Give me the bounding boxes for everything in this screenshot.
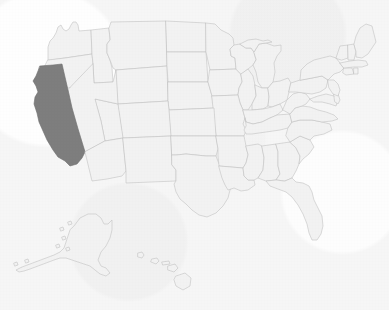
state-minnesota[interactable] [206, 23, 236, 70]
alaska-inset-group [14, 214, 112, 276]
alaska-island-g [60, 227, 64, 231]
state-new-mexico[interactable] [123, 136, 176, 183]
state-maryland[interactable] [310, 94, 338, 106]
state-north-dakota[interactable] [166, 21, 206, 52]
state-colorado[interactable] [118, 101, 171, 138]
state-massachusetts[interactable] [340, 60, 368, 68]
alaska-island-a [62, 236, 66, 240]
state-north-carolina[interactable] [286, 120, 332, 142]
alaska-island-e [25, 259, 29, 263]
state-rhode-island[interactable] [354, 68, 358, 74]
state-virginia[interactable] [290, 106, 338, 122]
state-new-jersey[interactable] [328, 80, 340, 96]
state-nebraska[interactable] [168, 82, 214, 110]
state-maine[interactable] [354, 24, 376, 58]
state-vermont[interactable] [336, 45, 348, 60]
state-montana[interactable] [107, 21, 167, 70]
contiguous-states-group [33, 21, 376, 240]
hawaii-inset-group [138, 252, 191, 290]
alaska-island-b [66, 247, 70, 251]
state-connecticut[interactable] [343, 68, 354, 75]
state-wyoming[interactable] [116, 66, 168, 104]
us-state-map-figure: United States map with California highli… [0, 0, 389, 310]
state-kansas[interactable] [169, 108, 216, 136]
alaska-island-c [56, 244, 60, 248]
state-oklahoma[interactable] [171, 136, 218, 156]
hawaii-island-oahu[interactable] [151, 258, 159, 264]
alaska-island-d [68, 221, 72, 225]
state-florida[interactable] [266, 178, 323, 240]
state-south-dakota[interactable] [167, 52, 208, 82]
hawaii-island-kauai[interactable] [138, 252, 144, 258]
hawaii-island-maui[interactable] [168, 264, 178, 272]
map-svg [0, 0, 389, 310]
hawaii-island-hawaii[interactable] [174, 273, 191, 290]
state-arkansas[interactable] [216, 136, 248, 168]
state-iowa[interactable] [208, 69, 242, 96]
state-washington[interactable] [48, 22, 92, 60]
hawaii-island-molokai[interactable] [162, 261, 170, 265]
state-alaska[interactable] [16, 214, 112, 276]
alaska-island-f [14, 262, 18, 266]
